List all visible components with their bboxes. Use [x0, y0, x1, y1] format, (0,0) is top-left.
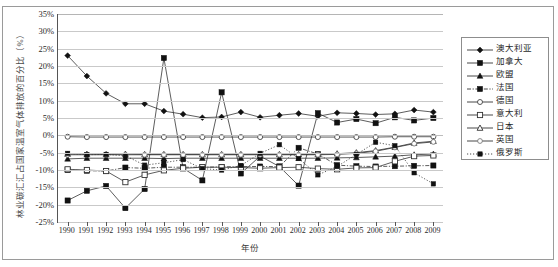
x-tick-label: 1990 [59, 226, 75, 236]
x-tick-label: 1996 [174, 226, 190, 236]
legend-label: 日本 [495, 120, 514, 132]
legend-label: 俄罗斯 [495, 146, 523, 158]
gridline [58, 101, 443, 102]
legend-marker-icon [465, 68, 495, 80]
x-tick-label: 1999 [232, 226, 248, 236]
legend-marker-icon [465, 55, 495, 67]
legend-item: 加拿大 [465, 54, 546, 67]
x-tick-label: 1991 [78, 226, 94, 236]
y-tick-label: 35% [38, 10, 54, 18]
x-tick-label: 2002 [290, 226, 306, 236]
legend-label: 法国 [495, 81, 514, 93]
x-tick-label: 2000 [251, 226, 267, 236]
legend-label: 德国 [495, 94, 514, 106]
legend-label: 意大利 [495, 107, 523, 119]
legend-marker-icon [465, 42, 495, 54]
legend-item: 法国 [465, 80, 546, 93]
x-axis-tick-labels: 1990199119921993199419951996199719981999… [57, 226, 442, 240]
gridline [58, 187, 443, 188]
x-tick-label: 1993 [116, 226, 132, 236]
gridline [58, 31, 443, 32]
legend-item: 英国 [465, 132, 546, 145]
y-tick-label: -5% [40, 149, 54, 157]
x-tick-label: 2004 [328, 226, 344, 236]
x-tick-label: 1997 [193, 226, 209, 236]
legend-item: 俄罗斯 [465, 145, 546, 158]
legend-marker-icon [465, 120, 495, 132]
series-0 [65, 53, 437, 121]
x-tick-label: 2005 [347, 226, 363, 236]
gridline [58, 205, 443, 206]
x-tick-label: 1994 [136, 226, 152, 236]
legend-item: 意大利 [465, 106, 546, 119]
y-tick-label: 10% [38, 97, 54, 105]
legend-label: 英国 [495, 133, 514, 145]
series-6 [65, 138, 437, 156]
x-tick-label: 2009 [424, 226, 440, 236]
gridline [58, 49, 443, 50]
chart-screenshot: 林业碳汇汇占国家温室气体排放的百分比（%） 35%30%25%20%15%10%… [0, 0, 558, 267]
x-tick-label: 2001 [270, 226, 286, 236]
y-tick-label: -25% [36, 218, 54, 226]
y-tick-label: 20% [38, 62, 54, 70]
y-tick-label: -10% [36, 166, 54, 174]
legend-item: 德国 [465, 93, 546, 106]
legend-label: 澳大利亚 [495, 42, 532, 54]
chart-legend: 澳大利亚加拿大欧盟法国德国意大利日本英国俄罗斯 [461, 37, 549, 160]
x-tick-label: 2007 [386, 226, 402, 236]
x-tick-label: 1995 [155, 226, 171, 236]
legend-marker-icon [465, 94, 495, 106]
gridline [58, 222, 443, 223]
legend-marker-icon [465, 81, 495, 93]
y-tick-label: 30% [38, 27, 54, 35]
legend-item: 澳大利亚 [465, 41, 546, 54]
y-axis-tick-labels: 35%30%25%20%15%10%5%0%-5%-10%-15%-20%-25… [24, 14, 54, 222]
y-tick-label: 5% [43, 114, 54, 122]
legend-marker-icon [465, 133, 495, 145]
y-tick-label: -15% [36, 183, 54, 191]
gridline [58, 14, 443, 15]
series-7 [65, 140, 436, 158]
gridline [58, 66, 443, 67]
legend-marker-icon [465, 146, 495, 158]
y-tick-label: 15% [38, 79, 54, 87]
legend-item: 欧盟 [465, 67, 546, 80]
legend-marker-icon [465, 107, 495, 119]
y-tick-label: -20% [36, 201, 54, 209]
y-tick-label: 25% [38, 45, 54, 53]
x-tick-label: 2006 [367, 226, 383, 236]
plot-area [57, 14, 443, 223]
gridline [58, 118, 443, 119]
legend-item: 日本 [465, 119, 546, 132]
x-tick-label: 2008 [405, 226, 421, 236]
gridline [58, 83, 443, 84]
legend-label: 加拿大 [495, 55, 523, 67]
y-tick-label: 0% [43, 131, 54, 139]
gridline [58, 170, 443, 171]
x-tick-label: 1998 [213, 226, 229, 236]
gridline [58, 135, 443, 136]
x-axis-title: 年份 [57, 241, 442, 253]
x-tick-label: 1992 [97, 226, 113, 236]
legend-label: 欧盟 [495, 68, 514, 80]
x-tick-label: 2003 [309, 226, 325, 236]
gridline [58, 153, 443, 154]
